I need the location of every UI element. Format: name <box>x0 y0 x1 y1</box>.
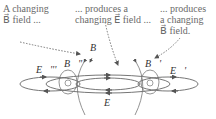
label-E-triple-prime: E⃗''' <box>36 64 56 75</box>
b-field-line-right <box>135 62 143 115</box>
label-E-prime: E⃗' <box>170 65 186 76</box>
e-loop-inner <box>76 78 140 90</box>
dotted-arrow-left <box>20 42 80 54</box>
b-loop-left-small <box>65 80 71 86</box>
b-loop-left <box>59 70 77 94</box>
b-field-line-center-arrow <box>90 58 92 62</box>
b-field-line-left <box>77 62 85 115</box>
b-loop-right-small <box>147 80 153 86</box>
label-E: E⃗ <box>104 97 118 108</box>
dotted-arrow-right <box>155 38 180 58</box>
label-B: B⃗ <box>90 42 104 53</box>
label-B-double-prime: B⃗" <box>64 58 82 69</box>
label-B-prime: B⃗' <box>145 58 161 69</box>
dotted-arrow-middle <box>105 22 118 65</box>
